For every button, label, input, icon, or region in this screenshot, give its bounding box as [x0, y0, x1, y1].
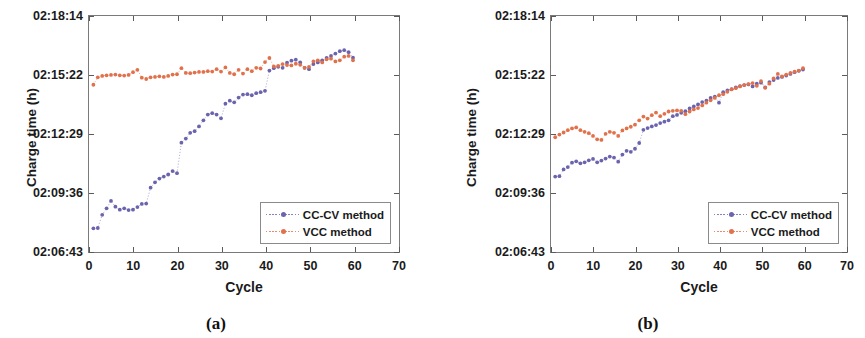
- data-point: [175, 72, 179, 76]
- legend-item-vcc[interactable]: VCC method: [266, 224, 384, 239]
- data-point: [250, 69, 254, 73]
- data-point: [608, 130, 612, 134]
- x-tick-label: 60: [798, 259, 812, 273]
- y-tick-label: 02:12:29: [33, 127, 83, 141]
- x-tick-mark: [551, 247, 552, 252]
- data-point: [742, 83, 746, 87]
- series-connector: [555, 68, 803, 140]
- data-point: [789, 71, 793, 75]
- data-point: [140, 202, 144, 206]
- x-tick-mark: [178, 247, 179, 252]
- data-point: [705, 101, 709, 105]
- data-point: [114, 205, 118, 209]
- panel-a: Charge time (h) 02:06:4302:09:3602:12:29…: [0, 0, 432, 338]
- data-point: [629, 125, 633, 129]
- data-point: [197, 125, 201, 129]
- data-point: [692, 108, 696, 112]
- x-tick-mark-top: [310, 16, 311, 21]
- data-point: [334, 60, 338, 64]
- data-point: [338, 58, 342, 62]
- legend-b[interactable]: CC-CV methodVCC method: [708, 202, 839, 244]
- data-point: [650, 113, 654, 117]
- data-point: [562, 168, 566, 172]
- data-point: [281, 66, 285, 70]
- y-tick-label: 02:15:22: [495, 68, 545, 82]
- data-point: [654, 123, 658, 127]
- data-point: [709, 98, 713, 102]
- y-tick-mark: [89, 252, 94, 253]
- data-point: [215, 113, 219, 117]
- y-tick-mark-right: [842, 252, 847, 253]
- x-tick-label: 40: [713, 259, 727, 273]
- x-tick-mark: [89, 247, 90, 252]
- data-point: [131, 208, 135, 212]
- data-point: [171, 73, 175, 77]
- data-point: [675, 109, 679, 113]
- data-point: [246, 92, 250, 96]
- y-tick-label: 02:18:14: [495, 9, 545, 23]
- data-point: [604, 157, 608, 161]
- x-tick-label: 70: [392, 259, 406, 273]
- data-point: [268, 69, 272, 73]
- data-point: [747, 82, 751, 86]
- plot-area-a: 02:06:4302:09:3602:12:2902:15:2202:18:14…: [88, 15, 400, 253]
- data-point: [237, 68, 241, 72]
- y-tick-mark: [551, 134, 556, 135]
- x-tick-mark-top: [593, 16, 594, 21]
- data-point: [232, 72, 236, 76]
- data-point: [587, 131, 591, 135]
- data-point: [612, 156, 616, 160]
- data-point: [202, 118, 206, 122]
- data-point: [642, 115, 646, 119]
- data-point: [268, 56, 272, 60]
- legend-marker-icon: [714, 226, 748, 237]
- data-point: [228, 99, 232, 103]
- legend-item-vcc[interactable]: VCC method: [714, 224, 832, 239]
- data-point: [625, 149, 629, 153]
- x-tick-label: 60: [348, 259, 362, 273]
- legend-item-cc-cv[interactable]: CC-CV method: [714, 207, 832, 222]
- data-point: [675, 113, 679, 117]
- data-point: [734, 86, 738, 90]
- data-point: [202, 70, 206, 74]
- data-point: [320, 61, 324, 65]
- data-point: [100, 213, 104, 217]
- data-point: [210, 111, 214, 115]
- data-point: [595, 160, 599, 164]
- data-point: [241, 93, 245, 97]
- data-point: [768, 82, 772, 86]
- y-tick-mark-right: [842, 193, 847, 194]
- data-point: [566, 165, 570, 169]
- legend-item-cc-cv[interactable]: CC-CV method: [266, 207, 384, 222]
- x-tick-label: 20: [171, 259, 185, 273]
- data-point: [294, 62, 298, 66]
- data-point: [776, 72, 780, 76]
- data-point: [109, 199, 113, 203]
- x-tick-label: 0: [86, 259, 93, 273]
- data-point: [144, 77, 148, 81]
- y-tick-label: 02:06:43: [495, 245, 545, 259]
- data-point: [290, 64, 294, 68]
- panel-caption-a: (a): [206, 314, 226, 334]
- x-tick-mark-top: [636, 16, 637, 21]
- y-tick-label: 02:06:43: [33, 245, 83, 259]
- legend-a[interactable]: CC-CV methodVCC method: [260, 202, 391, 244]
- x-tick-mark: [222, 247, 223, 252]
- y-tick-label: 02:12:29: [495, 127, 545, 141]
- data-point: [351, 58, 355, 62]
- data-point: [633, 147, 637, 151]
- data-point: [553, 135, 557, 139]
- x-tick-label: 40: [259, 259, 273, 273]
- x-tick-mark-top: [222, 16, 223, 21]
- data-point: [713, 96, 717, 100]
- data-point: [700, 104, 704, 108]
- data-point: [263, 60, 267, 64]
- data-point: [801, 66, 805, 70]
- data-point: [587, 158, 591, 162]
- data-point: [583, 130, 587, 134]
- x-tick-label: 70: [840, 259, 854, 273]
- data-point: [763, 86, 767, 90]
- data-point: [642, 128, 646, 132]
- data-point: [688, 110, 692, 114]
- y-tick-mark: [89, 134, 94, 135]
